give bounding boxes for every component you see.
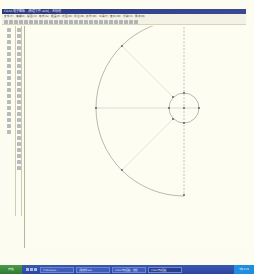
style-tool-icon[interactable] [17, 124, 21, 128]
app-window: CAXA 电子图板 - [新建文件.exb] - 无标题 文件(F) 编辑(E)… [0, 0, 254, 274]
taskbar-item[interactable]: 2 Windows... [40, 267, 74, 273]
open-file-icon[interactable] [9, 20, 13, 24]
join-tool-icon[interactable] [17, 100, 21, 104]
taskbar-item[interactable]: 新建文件.exb [76, 267, 110, 273]
cut-edge-tool-icon[interactable] [17, 118, 21, 122]
extend-tool-icon[interactable] [17, 40, 21, 44]
command-status-line: 请拾取需删除的元素 [2, 258, 252, 263]
ungroup-tool-icon[interactable] [17, 142, 21, 146]
zoom-out-icon[interactable] [79, 20, 83, 24]
print-icon[interactable] [19, 20, 23, 24]
quick-launch [24, 266, 38, 273]
view-tool-icon[interactable] [17, 154, 21, 158]
explode-tool-icon[interactable] [17, 88, 21, 92]
block-tool-icon[interactable] [7, 130, 11, 134]
edit-toolbar [15, 26, 22, 216]
fillet-tool-icon[interactable] [7, 106, 11, 110]
dimension-tool-icon[interactable] [7, 124, 11, 128]
undo-icon[interactable] [39, 20, 43, 24]
trim-tool-icon[interactable] [17, 34, 21, 38]
desktop-icon[interactable] [30, 268, 33, 271]
lengthen-tool-icon[interactable] [17, 112, 21, 116]
match-icon[interactable] [104, 20, 108, 24]
point-tool-icon[interactable] [7, 94, 11, 98]
rectangle-tool-icon[interactable] [7, 46, 11, 50]
taskbar-item[interactable]: CAXA 电子图板 - 文档 [112, 267, 146, 273]
system-tray-clock: 下午 3:45 [234, 265, 254, 274]
centerline-tool-icon[interactable] [7, 52, 11, 56]
align-tool-icon[interactable] [17, 94, 21, 98]
zoom-in-icon[interactable] [74, 20, 78, 24]
help-icon[interactable] [134, 20, 138, 24]
stretch-tool-icon[interactable] [17, 82, 21, 86]
measure-icon[interactable] [109, 20, 113, 24]
drawing-canvas[interactable] [24, 26, 250, 248]
linetype-icon[interactable] [59, 20, 63, 24]
break-tool-icon[interactable] [7, 118, 11, 122]
redraw-icon[interactable] [64, 20, 68, 24]
delete-tool-icon[interactable] [17, 28, 21, 32]
media-icon[interactable] [34, 268, 37, 271]
grid-icon[interactable] [129, 20, 133, 24]
rotate-tool-icon[interactable] [17, 58, 21, 62]
zoom-all-icon[interactable] [89, 20, 93, 24]
cut-icon[interactable] [24, 20, 28, 24]
new-file-icon[interactable] [4, 20, 8, 24]
large-arc [96, 26, 184, 196]
paste-icon[interactable] [34, 20, 38, 24]
query-icon[interactable] [114, 20, 118, 24]
attribute-tool-icon[interactable] [17, 148, 21, 152]
ellipse-tool-icon[interactable] [7, 76, 11, 80]
offset-tool-icon[interactable] [7, 100, 11, 104]
drawing-geometry [25, 26, 251, 248]
scale-tool-icon[interactable] [17, 70, 21, 74]
taskbar-item-active[interactable]: CAXA 电子图板 [148, 267, 182, 273]
hatch-tool-icon[interactable] [7, 82, 11, 86]
spline-tool-icon[interactable] [7, 58, 11, 62]
standard-toolbar [2, 19, 246, 25]
properties-icon[interactable] [99, 20, 103, 24]
move-tool-icon[interactable] [17, 46, 21, 50]
circle-tool-icon[interactable] [7, 40, 11, 44]
color-icon[interactable] [54, 20, 58, 24]
array-tool-icon[interactable] [17, 76, 21, 80]
ie-icon[interactable] [26, 268, 29, 271]
draw-toolbar [5, 26, 12, 226]
snap-icon[interactable] [124, 20, 128, 24]
lower-radius [122, 119, 173, 170]
polygon-tool-icon[interactable] [7, 70, 11, 74]
text-tool-icon[interactable] [7, 88, 11, 92]
polyline-tool-icon[interactable] [7, 64, 11, 68]
divide-tool-icon[interactable] [17, 106, 21, 110]
group-tool-icon[interactable] [17, 136, 21, 140]
arc-tool-icon[interactable] [7, 34, 11, 38]
mirror-tool-icon[interactable] [17, 64, 21, 68]
windows-taskbar: 开始 2 Windows... 新建文件.exb CAXA 电子图板 - 文档 … [0, 265, 254, 274]
upper-radius [122, 46, 173, 97]
zoom-previous-icon[interactable] [94, 20, 98, 24]
copy-icon[interactable] [29, 20, 33, 24]
pan-icon[interactable] [84, 20, 88, 24]
save-icon[interactable] [14, 20, 18, 24]
zoom-tool-icon[interactable] [17, 160, 21, 164]
layer-tool-icon[interactable] [17, 130, 21, 134]
copy-tool-icon[interactable] [17, 52, 21, 56]
chamfer-tool-icon[interactable] [7, 112, 11, 116]
start-button[interactable]: 开始 [0, 265, 22, 274]
settings-icon[interactable] [119, 20, 123, 24]
redo-icon[interactable] [44, 20, 48, 24]
line-tool-icon[interactable] [7, 28, 11, 32]
query-tool-icon[interactable] [17, 166, 21, 170]
layer-icon[interactable] [49, 20, 53, 24]
zoom-window-icon[interactable] [69, 20, 73, 24]
